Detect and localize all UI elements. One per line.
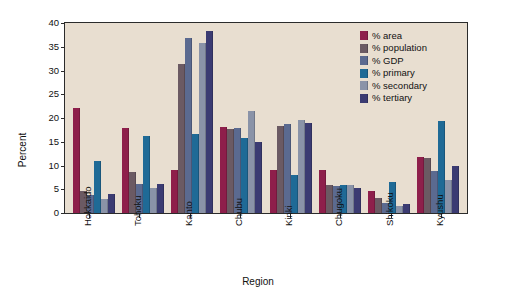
- y-tick-label: 25: [48, 90, 59, 100]
- legend-item: % area: [360, 30, 427, 41]
- bar-group: [315, 23, 364, 213]
- legend: % area% population% GDP% primary% second…: [360, 30, 427, 104]
- bar: [178, 64, 185, 213]
- bar: [417, 157, 424, 213]
- y-tick-label: 20: [48, 113, 59, 123]
- bar: [150, 188, 157, 213]
- legend-label: % area: [372, 31, 402, 41]
- x-axis-title: Region: [0, 276, 516, 287]
- bar: [403, 204, 410, 213]
- bar: [171, 170, 178, 213]
- bar-group: [168, 23, 217, 213]
- chart-figure: Percent 0510152025303540 HokkaidoTohokuK…: [0, 0, 516, 300]
- legend-item: % GDP: [360, 55, 427, 66]
- bar: [298, 120, 305, 213]
- bar: [354, 188, 361, 213]
- legend-swatch-icon: [360, 44, 368, 53]
- legend-item: % population: [360, 43, 427, 54]
- bar-group: [118, 23, 167, 213]
- legend-label: % primary: [372, 68, 415, 78]
- x-tick-label: Hokkaido: [82, 186, 93, 226]
- legend-swatch-icon: [360, 69, 368, 78]
- bar: [284, 124, 291, 213]
- bar: [270, 170, 277, 213]
- x-tick-label: Tohoku: [132, 195, 143, 226]
- legend-label: % population: [372, 43, 427, 53]
- bar: [122, 128, 129, 213]
- y-tick-label: 40: [48, 18, 59, 28]
- bar: [326, 185, 333, 214]
- legend-item: % primary: [360, 68, 427, 79]
- bar: [94, 161, 101, 213]
- bar: [368, 191, 375, 213]
- bar: [157, 184, 164, 213]
- bar: [424, 158, 431, 213]
- bar: [255, 142, 262, 213]
- legend-label: % tertiary: [372, 93, 412, 103]
- bar: [199, 43, 206, 213]
- bar: [101, 199, 108, 213]
- bar-group: [266, 23, 315, 213]
- bar: [220, 127, 227, 213]
- bar: [108, 194, 115, 213]
- bar: [305, 123, 312, 213]
- y-tick-label: 0: [54, 208, 59, 218]
- y-tick-label: 5: [54, 185, 59, 195]
- bar: [185, 38, 192, 213]
- legend-label: % secondary: [372, 81, 427, 91]
- legend-swatch-icon: [360, 81, 368, 90]
- legend-label: % GDP: [372, 56, 404, 66]
- legend-swatch-icon: [360, 56, 368, 65]
- bar: [445, 180, 452, 213]
- x-tick-label: Chugoku: [333, 188, 344, 226]
- y-tick-label: 35: [48, 42, 59, 52]
- legend-item: % tertiary: [360, 93, 427, 104]
- bar: [452, 166, 459, 213]
- y-tick-label: 15: [48, 137, 59, 147]
- x-tick-label: Shikoku: [384, 192, 395, 226]
- bar: [143, 136, 150, 213]
- legend-swatch-icon: [360, 31, 368, 40]
- bar: [73, 108, 80, 213]
- y-tick-label: 30: [48, 66, 59, 76]
- bar-group: [217, 23, 266, 213]
- y-tick-mark: [61, 213, 65, 214]
- bar: [396, 206, 403, 213]
- bar-group: [69, 23, 118, 213]
- bar: [277, 126, 284, 213]
- bar: [248, 111, 255, 213]
- bar: [206, 31, 213, 213]
- bar: [347, 185, 354, 213]
- legend-item: % secondary: [360, 80, 427, 91]
- bar: [319, 170, 326, 213]
- bar: [375, 198, 382, 213]
- y-tick-label: 10: [48, 161, 59, 171]
- y-axis-title: Percent: [17, 90, 28, 210]
- legend-swatch-icon: [360, 94, 368, 103]
- x-tick-label: Kyushu: [434, 194, 445, 226]
- x-tick-label: Chubu: [233, 198, 244, 226]
- x-tick-label: Kinki: [283, 205, 294, 226]
- x-tick-label: Kanto: [183, 201, 194, 226]
